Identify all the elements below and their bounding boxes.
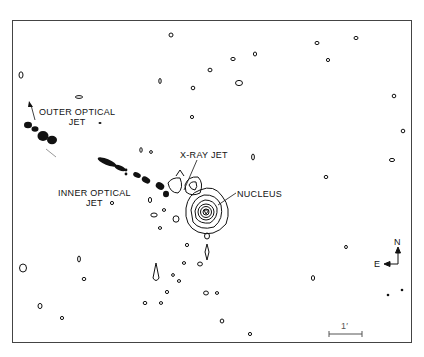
arrow-head-icon: [28, 101, 33, 107]
xray-jet-leader: [184, 160, 197, 190]
outer-optical-jet-knot: [24, 122, 32, 128]
nucleus-label: NUCLEUS: [237, 189, 282, 199]
compass-icon: [384, 247, 401, 267]
outer-jet-arrow: [31, 105, 35, 120]
contour-map: [0, 0, 424, 357]
label-line: JET: [39, 117, 115, 127]
contour-blob: [169, 33, 173, 37]
label-line: JET: [58, 198, 131, 208]
scale-bar-label: 1′: [341, 321, 348, 331]
inner-optical-jet-knot: [97, 155, 118, 168]
compass-north-label: N: [394, 237, 401, 247]
label-line: INNER OPTICAL: [58, 188, 131, 198]
xray-jet-label: X-RAY JET: [180, 150, 228, 160]
inner-optical-jet-label: INNER OPTICAL JET: [58, 188, 131, 208]
scale-bar: [329, 331, 362, 337]
label-line: OUTER OPTICAL: [39, 107, 115, 117]
compass-east-label: E: [374, 259, 380, 269]
outer-optical-jet-label: OUTER OPTICAL JET: [39, 107, 115, 127]
